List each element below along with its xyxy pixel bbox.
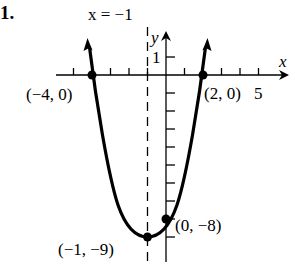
left-arrow-icon	[84, 38, 93, 51]
x-tick-label-5: 5	[254, 84, 263, 103]
x-axis-label: x	[278, 52, 287, 71]
parabola-graph: x = −1 y 1 x 5 (−4, 0) (2, 0) (0, −8) (−…	[0, 0, 295, 264]
point-left-intercept	[88, 71, 97, 80]
point-vertex	[143, 233, 152, 242]
y-axis	[166, 36, 175, 262]
y-tick-label-1: 1	[152, 48, 161, 67]
point-right-intercept-label: (2, 0)	[204, 84, 241, 103]
y-axis-label: y	[149, 28, 159, 47]
point-y-intercept-label: (0, −8)	[175, 216, 221, 235]
point-vertex-label: (−1, −9)	[58, 240, 114, 259]
point-y-intercept	[162, 215, 171, 224]
point-right-intercept	[199, 71, 208, 80]
right-arrow-icon	[203, 38, 212, 51]
point-left-intercept-label: (−4, 0)	[26, 85, 72, 104]
axis-of-symmetry-label: x = −1	[88, 5, 133, 24]
